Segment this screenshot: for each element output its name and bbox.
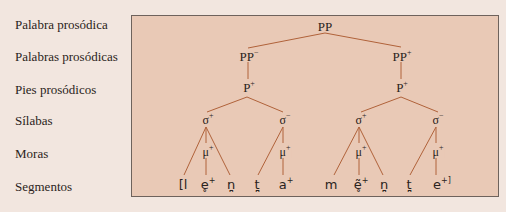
node-pp-plus: PP+ xyxy=(393,50,412,63)
node-syllable-1: σ+ xyxy=(203,114,214,126)
node-foot-left: P+ xyxy=(243,81,255,94)
segment-7: ẽ̥+ xyxy=(354,178,369,191)
node-syllable-3: σ+ xyxy=(356,114,367,126)
segment-3: n̪ xyxy=(227,178,235,191)
node-mora-2: μ+ xyxy=(279,146,292,158)
segment-8: n̪ xyxy=(380,178,388,191)
node-pp-minus: PP− xyxy=(240,50,259,63)
node-pp: PP xyxy=(318,20,332,33)
node-mora-4: μ+ xyxy=(432,146,445,158)
node-syllable-4: σ− xyxy=(433,114,444,126)
node-mora-1: μ+ xyxy=(202,146,215,158)
segment-2: e̥+ xyxy=(201,178,216,191)
node-mora-3: μ+ xyxy=(355,146,368,158)
node-foot-right: P+ xyxy=(396,81,408,94)
node-syllable-2: σ− xyxy=(280,114,291,126)
segment-4: t̪ xyxy=(254,178,259,191)
segment-9: t̪ xyxy=(406,178,411,191)
segment-1: [l xyxy=(179,178,188,191)
segment-10: e+] xyxy=(433,178,451,191)
segment-6: m xyxy=(325,178,338,191)
segment-5: a+ xyxy=(279,178,294,191)
tree-branches xyxy=(0,0,506,212)
